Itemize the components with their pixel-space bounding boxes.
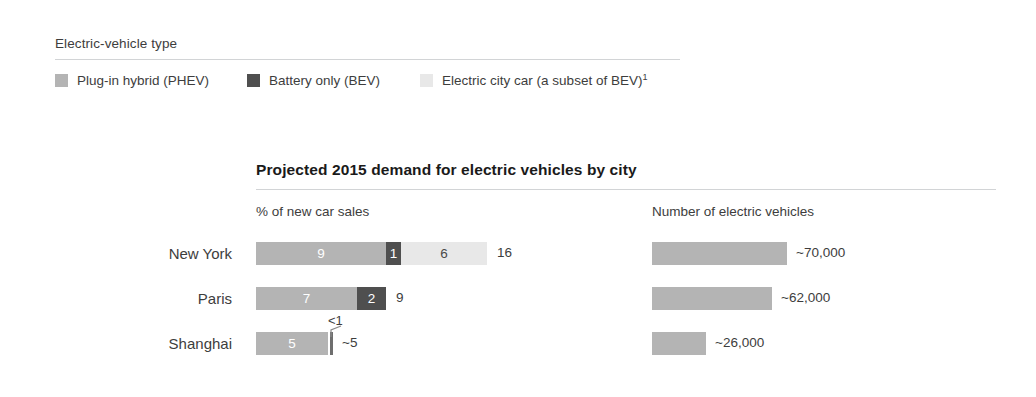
legend-label-city: Electric city car (a subset of BEV)1 — [442, 73, 647, 88]
count-bar-paris — [652, 287, 772, 310]
bar-segment-value-bev: 2 — [357, 287, 386, 310]
row-label-paris: Paris — [198, 290, 232, 308]
bar-segment-value-phev: 5 — [256, 332, 328, 355]
legend-swatch-city — [420, 74, 433, 87]
legend-swatch-phev — [55, 74, 68, 87]
count-bar-shanghai — [652, 332, 706, 355]
row-total-paris: 9 — [396, 290, 404, 306]
panel-header-percent: % of new car sales — [256, 204, 369, 220]
chart-rows: New York 9 1 6 16 ~70,000 Paris — [256, 238, 996, 373]
chart-row: Paris 7 2 9 ~62,000 — [256, 283, 996, 328]
bar-segment-value-city-car: 6 — [401, 242, 487, 265]
bar-segment-phev: 9 — [256, 242, 386, 265]
row-label-shanghai: Shanghai — [169, 335, 232, 353]
bar-segment-value-bev: 1 — [386, 242, 401, 265]
row-total-shanghai: ~5 — [342, 335, 357, 351]
legend-item-city: Electric city car (a subset of BEV)1 — [420, 73, 647, 88]
bar-segment-value-phev: 7 — [256, 287, 357, 310]
count-label-paris: ~62,000 — [781, 290, 830, 306]
chart-title: Projected 2015 demand for electric vehic… — [256, 160, 996, 179]
legend-footnote-marker: 1 — [642, 72, 647, 82]
panel-header-count: Number of electric vehicles — [652, 204, 814, 220]
chart-row: New York 9 1 6 16 ~70,000 — [256, 238, 996, 283]
panel-headers: % of new car sales Number of electric ve… — [256, 204, 996, 224]
stacked-bar-paris: 7 2 — [256, 287, 386, 310]
chart-title-divider — [256, 189, 996, 190]
legend-divider — [55, 59, 680, 60]
legend-title: Electric-vehicle type — [55, 36, 680, 52]
legend-swatch-bev — [247, 74, 260, 87]
legend-label-city-text: Electric city car (a subset of BEV) — [442, 73, 642, 88]
legend-item-bev: Battery only (BEV) — [247, 73, 380, 88]
chart: Projected 2015 demand for electric vehic… — [256, 160, 996, 373]
bar-segment-bev: 1 — [386, 242, 401, 265]
stacked-bar-shanghai: 5 — [256, 332, 328, 355]
bar-segment-value-phev: 9 — [256, 242, 386, 265]
legend-label-bev: Battery only (BEV) — [269, 73, 380, 88]
legend-label-phev: Plug-in hybrid (PHEV) — [77, 73, 209, 88]
count-label-shanghai: ~26,000 — [715, 335, 764, 351]
count-bar-new-york — [652, 242, 787, 265]
count-label-new-york: ~70,000 — [796, 245, 845, 261]
bar-segment-bev: 2 — [357, 287, 386, 310]
legend-item-phev: Plug-in hybrid (PHEV) — [55, 73, 209, 88]
legend-items: Plug-in hybrid (PHEV) Battery only (BEV)… — [55, 73, 680, 88]
bar-segment-city-car: 6 — [401, 242, 487, 265]
row-label-new-york: New York — [169, 245, 232, 263]
stacked-bar-new-york: 9 1 6 — [256, 242, 487, 265]
legend: Electric-vehicle type Plug-in hybrid (PH… — [55, 36, 680, 88]
row-total-new-york: 16 — [497, 245, 512, 261]
chart-row: Shanghai 5 <1 ~5 ~26,000 — [256, 328, 996, 373]
bar-segment-phev: 7 — [256, 287, 357, 310]
bar-segment-phev: 5 — [256, 332, 328, 355]
